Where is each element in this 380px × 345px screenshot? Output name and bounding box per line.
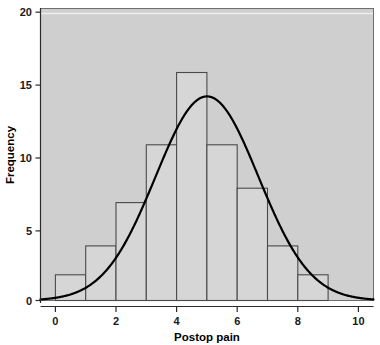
x-axis-tick-label: 8 — [295, 315, 301, 327]
histogram-bar — [237, 188, 267, 300]
y-axis-tick-label: 15 — [20, 79, 32, 91]
x-axis-tick-label: 0 — [52, 315, 58, 327]
y-axis-tick-label: 20 — [20, 6, 32, 18]
y-axis-title: Frequency — [4, 125, 16, 184]
chart-canvas: 20 15 10 5 0 0 2 4 6 8 10 Postop pain Fr… — [0, 0, 380, 345]
y-axis: 20 15 10 5 0 — [20, 6, 41, 306]
x-axis-tick-label: 2 — [113, 315, 119, 327]
y-axis-tick-label: 10 — [20, 152, 32, 164]
histogram-figure: 20 15 10 5 0 0 2 4 6 8 10 Postop pain Fr… — [0, 0, 380, 345]
x-axis-tick-label: 10 — [352, 315, 364, 327]
histogram-bar — [86, 246, 116, 301]
x-axis-tick-label: 6 — [234, 315, 240, 327]
histogram-bar — [298, 275, 328, 301]
histogram-bar — [207, 145, 237, 301]
x-axis-tick-label: 4 — [174, 315, 181, 327]
x-axis: 0 2 4 6 8 10 — [41, 307, 374, 328]
y-axis-tick-label: 5 — [26, 225, 32, 237]
histogram-bar — [268, 246, 298, 301]
histogram-bar — [146, 145, 176, 301]
y-axis-tick-label: 0 — [26, 295, 32, 307]
x-axis-title: Postop pain — [174, 331, 240, 343]
